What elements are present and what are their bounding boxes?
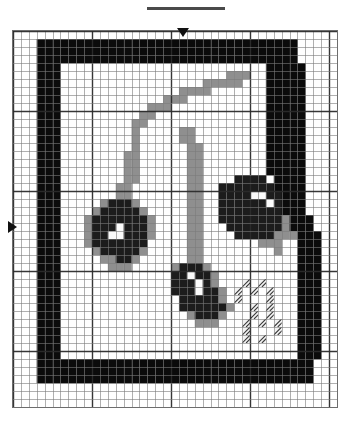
redacted-title-rule bbox=[147, 7, 225, 10]
chart-page bbox=[0, 0, 349, 434]
center-column-arrow-icon bbox=[177, 28, 189, 37]
center-row-arrow-icon bbox=[8, 221, 17, 233]
stitch-grid-canvas[interactable] bbox=[13, 31, 337, 407]
cross-stitch-chart-frame[interactable] bbox=[12, 30, 338, 408]
